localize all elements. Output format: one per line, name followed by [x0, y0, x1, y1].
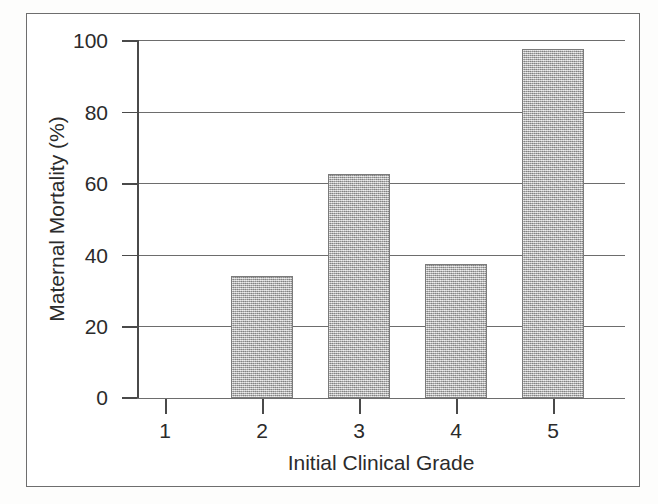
- y-tick-40: [122, 255, 137, 257]
- x-tick-3: [359, 399, 361, 414]
- y-tick-80: [122, 112, 137, 114]
- x-tick-label-2: 2: [242, 420, 282, 442]
- x-tick-label-5: 5: [533, 420, 573, 442]
- y-tick-60: [122, 183, 137, 185]
- x-tick-label-3: 3: [339, 420, 379, 442]
- y-tick-100: [122, 40, 137, 42]
- figure-bar-chart: 100 80 60 40 20 0 1 2 3 4 5 Initial Clin…: [0, 0, 658, 504]
- y-tick-20: [122, 326, 137, 328]
- x-tick-1: [165, 399, 167, 414]
- x-tick-2: [262, 399, 264, 414]
- x-tick-5: [553, 399, 555, 414]
- y-tick-0: [122, 397, 137, 399]
- bar-grade-4: [425, 264, 487, 398]
- x-tick-label-4: 4: [436, 420, 476, 442]
- bar-grade-5: [522, 49, 584, 398]
- plot-area: [137, 40, 625, 398]
- x-axis-title: Initial Clinical Grade: [137, 452, 625, 474]
- axis-baseline-0: [137, 398, 625, 399]
- x-tick-label-1: 1: [145, 420, 185, 442]
- bar-grade-3: [328, 174, 390, 398]
- gridline-100: [137, 40, 625, 41]
- bar-grade-2: [231, 276, 293, 398]
- y-axis-title: Maternal Mortality (%): [46, 40, 68, 398]
- y-axis-spine: [137, 40, 139, 398]
- x-tick-4: [456, 399, 458, 414]
